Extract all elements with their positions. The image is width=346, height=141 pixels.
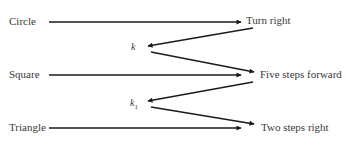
input-label-square: Square (9, 68, 40, 80)
output-label-five-steps-forward: Five steps forward (260, 68, 342, 80)
arrow-1 (148, 28, 253, 46)
input-label-triangle: Triangle (9, 121, 46, 133)
output-label-two-steps-right: Two steps right (261, 121, 329, 133)
input-label-circle: Circle (9, 15, 36, 27)
arrow-4 (148, 82, 253, 101)
key-label-k1: k1 (130, 97, 138, 113)
key-k-text: k (131, 41, 135, 52)
key-label-k: k (131, 41, 135, 53)
diagram-canvas: Circle Square Triangle Turn right Five s… (0, 0, 346, 141)
arrow-2 (151, 52, 254, 72)
output-label-turn-right: Turn right (246, 14, 291, 26)
key-k1-subscript: 1 (134, 103, 138, 111)
arrow-5 (151, 107, 254, 124)
